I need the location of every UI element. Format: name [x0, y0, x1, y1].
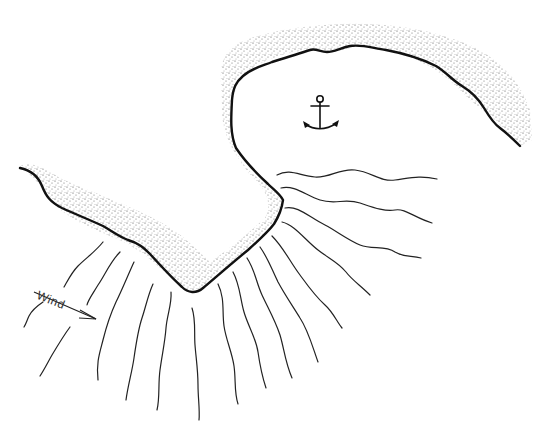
anchor-icon — [303, 96, 339, 129]
sand-band-lower — [20, 24, 532, 293]
harbor-waves — [272, 170, 437, 328]
harbor-diagram: Wind — [0, 0, 541, 433]
coastline — [20, 45, 520, 292]
